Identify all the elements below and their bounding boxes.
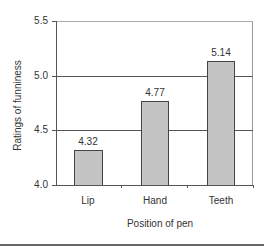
category-label-teeth: Teeth <box>196 195 246 206</box>
x-axis <box>52 185 254 186</box>
y-tick-label: 5.0 <box>18 70 48 81</box>
y-tick-label: 5.5 <box>18 15 48 26</box>
x-tick <box>253 185 254 188</box>
y-axis-title: Ratings of funniness <box>12 51 23 161</box>
y-tick-label: 4.0 <box>18 179 48 190</box>
x-tick <box>187 185 188 188</box>
value-label-hand: 4.77 <box>135 87 175 98</box>
y-tick-label: 4.5 <box>18 124 48 135</box>
bar-teeth <box>207 61 235 186</box>
value-label-teeth: 5.14 <box>201 47 241 58</box>
x-tick <box>121 185 122 188</box>
category-label-lip: Lip <box>63 195 113 206</box>
y-axis <box>56 21 57 186</box>
value-label-lip: 4.32 <box>68 136 108 147</box>
bar-hand <box>141 101 169 186</box>
bar-lip <box>74 150 103 186</box>
category-label-hand: Hand <box>130 195 180 206</box>
x-axis-title: Position of pen <box>100 218 220 229</box>
